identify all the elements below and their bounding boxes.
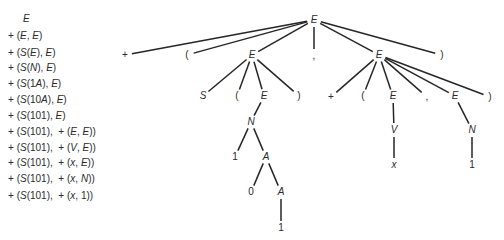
- tree-node-one2: 1: [278, 222, 284, 234]
- tree-node-N2: N: [468, 124, 475, 136]
- tree-edge: [254, 128, 263, 150]
- tree-edge: [239, 62, 249, 90]
- tree-node-rp1: ): [440, 49, 443, 61]
- tree-edge: [269, 163, 278, 185]
- tree-node-zero: 0: [248, 186, 254, 198]
- tree-node-root: E: [311, 14, 318, 26]
- tree-edge: [257, 60, 293, 92]
- tree-node-one1: 1: [232, 151, 238, 163]
- parse-tree: E+(E,E)S(E)N1A0A1+(E,E)VxN1: [0, 0, 504, 240]
- tree-edge: [381, 62, 390, 90]
- tree-node-x: x: [392, 159, 397, 171]
- tree-node-N1: N: [247, 116, 254, 128]
- tree-node-lp2: (: [235, 90, 238, 102]
- tree-edge: [336, 60, 373, 93]
- tree-node-E1: E: [249, 49, 256, 61]
- tree-node-E4: E: [390, 90, 397, 102]
- tree-node-E3: E: [261, 90, 268, 102]
- tree-node-E2: E: [376, 49, 383, 61]
- tree-edge: [386, 58, 484, 95]
- tree-edge: [320, 23, 373, 51]
- tree-node-A1: A: [263, 151, 270, 163]
- tree-node-rp3: ): [488, 91, 491, 103]
- tree-edge: [458, 102, 469, 123]
- tree-node-rp2: ): [297, 90, 300, 102]
- tree-edge: [258, 23, 308, 51]
- tree-edge: [254, 163, 263, 185]
- tree-node-V: V: [391, 124, 398, 136]
- tree-node-A2: A: [278, 186, 285, 198]
- tree-node-plus1: +: [122, 49, 128, 61]
- tree-node-plus2: +: [328, 91, 334, 103]
- tree-node-lp3: (: [361, 90, 364, 102]
- tree-node-comma1: ,: [313, 50, 316, 62]
- tree-edge: [254, 62, 262, 90]
- tree-node-E5: E: [452, 90, 459, 102]
- tree-node-comma2: ,: [426, 91, 429, 103]
- tree-node-lp1: (: [185, 49, 188, 61]
- tree-edge: [238, 128, 248, 150]
- tree-node-one3: 1: [469, 159, 475, 171]
- tree-edge: [254, 102, 261, 115]
- tree-edge: [132, 21, 307, 53]
- tree-node-S: S: [200, 90, 207, 102]
- tree-edge: [393, 103, 394, 123]
